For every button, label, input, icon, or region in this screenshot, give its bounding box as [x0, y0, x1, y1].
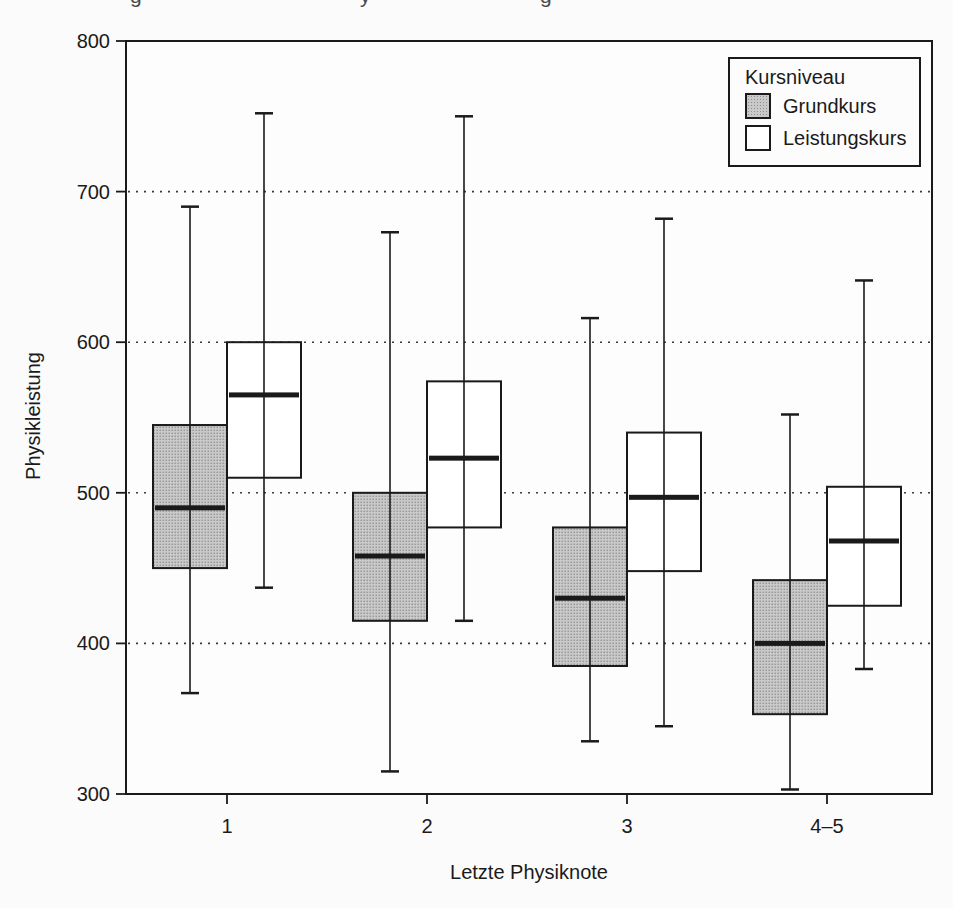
legend-entry-grundkurs: Grundkurs — [745, 93, 919, 119]
median-grundkurs-cat4 — [755, 641, 825, 646]
legend-title: Kursniveau — [745, 65, 919, 89]
x-axis-title: Letzte Physiknote — [450, 861, 608, 884]
median-leistungskurs-cat1 — [229, 392, 299, 397]
median-grundkurs-cat1 — [155, 505, 225, 510]
median-leistungskurs-cat3 — [629, 495, 699, 500]
y-tick-label-800: 800 — [77, 30, 110, 52]
y-tick-label-400: 400 — [77, 632, 110, 654]
x-tick-label-4: 4–5 — [810, 815, 843, 837]
y-tick-label-700: 700 — [77, 181, 110, 203]
median-leistungskurs-cat2 — [429, 456, 499, 461]
legend: Kursniveau Grundkurs Leistungskurs — [728, 57, 921, 167]
x-tick-label-2: 2 — [421, 815, 432, 837]
median-leistungskurs-cat4 — [829, 538, 899, 543]
y-axis-title: Physikleistung — [22, 352, 45, 480]
y-tick-label-600: 600 — [77, 331, 110, 353]
legend-label-leistungskurs: Leistungskurs — [783, 127, 906, 150]
grundkurs-swatch-icon — [745, 93, 771, 119]
y-tick-label-500: 500 — [77, 482, 110, 504]
y-tick-label-300: 300 — [77, 783, 110, 805]
x-tick-label-3: 3 — [621, 815, 632, 837]
x-tick-label-1: 1 — [221, 815, 232, 837]
legend-label-grundkurs: Grundkurs — [783, 95, 876, 118]
scanned-boxplot-page: gyg 3004005006007008001234–5 Physikleist… — [0, 0, 953, 908]
leistungskurs-swatch-icon — [745, 125, 771, 151]
median-grundkurs-cat3 — [555, 596, 625, 601]
median-grundkurs-cat2 — [355, 554, 425, 559]
legend-entry-leistungskurs: Leistungskurs — [745, 125, 919, 151]
